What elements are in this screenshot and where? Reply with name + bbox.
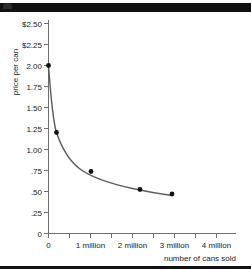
y-tick-label-0: 0 xyxy=(38,230,43,239)
chart-screenshot: $2.50 $2.25 2.00 1.75 1.50 1.25 1.00 .75… xyxy=(0,0,251,270)
top-banner-nub xyxy=(3,3,12,9)
demand-curve-path xyxy=(49,66,173,196)
data-point-3 xyxy=(138,187,143,192)
x-axis-title: number of cans sold xyxy=(164,254,236,263)
y-tick-label-1-50: 1.50 xyxy=(26,104,42,113)
x-tick-label-1-million: 1 million xyxy=(76,241,105,250)
x-tick-label-4-million: 4 million xyxy=(202,241,231,250)
y-tick-label-1-25: 1.25 xyxy=(26,125,42,134)
demand-curve-chart: $2.50 $2.25 2.00 1.75 1.50 1.25 1.00 .75… xyxy=(0,12,251,264)
x-axis-ticks xyxy=(49,234,217,239)
y-tick-label-0-25: .25 xyxy=(31,209,43,218)
y-tick-label-1-75: 1.75 xyxy=(26,83,42,92)
chart-plot-container: $2.50 $2.25 2.00 1.75 1.50 1.25 1.00 .75… xyxy=(0,12,251,264)
data-point-0 xyxy=(46,63,51,68)
data-point-1 xyxy=(54,130,59,135)
top-banner-bar xyxy=(0,3,251,12)
y-tick-label-1-00: 1.00 xyxy=(26,146,42,155)
y-tick-label-0-75: .75 xyxy=(31,167,43,176)
x-tick-label-2-million: 2 million xyxy=(118,241,147,250)
bottom-rule xyxy=(0,266,251,269)
x-tick-label-3-million: 3 million xyxy=(160,241,189,250)
x-tick-label-0: 0 xyxy=(46,241,51,250)
y-tick-label-2-25: $2.25 xyxy=(22,41,43,50)
data-point-4 xyxy=(170,192,175,197)
y-tick-label-2-00: 2.00 xyxy=(26,62,42,71)
y-axis-ticks xyxy=(44,24,49,234)
y-tick-label-2-50: $2.50 xyxy=(22,20,43,29)
y-axis-title: price per can xyxy=(11,49,20,95)
data-point-2 xyxy=(89,169,94,174)
y-tick-label-0-50: .50 xyxy=(31,188,43,197)
data-point-markers xyxy=(46,63,174,196)
